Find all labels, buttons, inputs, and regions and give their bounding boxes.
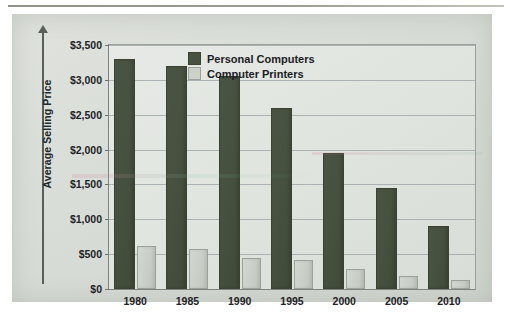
bar-personal-computers — [271, 108, 292, 289]
bar-computer-printers — [399, 276, 418, 289]
legend-label-personal-computers: Personal Computers — [207, 53, 315, 65]
y-axis-tick-label: $500 — [79, 248, 102, 260]
x-axis-tick-label: 2005 — [367, 295, 427, 307]
bar-computer-printers — [137, 246, 156, 289]
y-axis-tick-label: $0 — [90, 283, 102, 295]
x-axis-tick-label: 1990 — [210, 295, 270, 307]
x-axis-tick-label: 2000 — [314, 295, 374, 307]
y-axis-tick-label: $2,000 — [70, 144, 102, 156]
y-axis-tick-label: $1,500 — [70, 178, 102, 190]
legend-swatch-icon-computer-printers — [188, 67, 201, 80]
legend-swatch-icon-personal-computers — [188, 52, 201, 65]
y-axis-tick-label: $3,500 — [70, 39, 102, 51]
bar-computer-printers — [346, 269, 365, 289]
legend-item-personal-computers: Personal Computers — [188, 52, 315, 65]
bar-group: 1980 — [109, 45, 161, 289]
x-axis-tick-label: 1985 — [157, 295, 217, 307]
bar-personal-computers — [114, 59, 135, 289]
bar-computer-printers — [242, 258, 261, 289]
bar-personal-computers — [166, 66, 187, 289]
y-axis-tick-label: $1,000 — [70, 213, 102, 225]
bar-computer-printers — [294, 260, 313, 289]
bar-personal-computers — [219, 76, 240, 289]
x-axis-tick-label: 1995 — [262, 295, 322, 307]
bar-personal-computers — [428, 226, 449, 289]
gridline — [109, 289, 475, 290]
x-axis-tick-label: 1980 — [105, 295, 165, 307]
bar-group: 2005 — [370, 45, 422, 289]
bar-group: 2010 — [423, 45, 475, 289]
y-axis-title-group: Average Selling Price — [28, 32, 58, 284]
y-axis-tick-label: $3,000 — [70, 74, 102, 86]
chart-legend: Personal Computers Computer Printers — [188, 52, 315, 82]
legend-item-computer-printers: Computer Printers — [188, 67, 315, 80]
x-axis-tick-label: 2010 — [419, 295, 479, 307]
bar-personal-computers — [376, 188, 397, 289]
bar-computer-printers — [451, 280, 470, 289]
legend-label-computer-printers: Computer Printers — [207, 68, 304, 80]
bar-computer-printers — [189, 249, 208, 289]
y-axis-title: Average Selling Price — [41, 63, 53, 205]
bar-group: 2000 — [318, 45, 370, 289]
y-axis-tick-label: $2,500 — [70, 109, 102, 121]
figure-panel: Average Selling Price $0$500$1,000$1,500… — [12, 14, 492, 302]
y-axis-tick-mark — [105, 289, 109, 290]
chart-page: Average Selling Price $0$500$1,000$1,500… — [0, 0, 510, 314]
page-top-rule — [8, 5, 504, 7]
bar-personal-computers — [323, 153, 344, 289]
